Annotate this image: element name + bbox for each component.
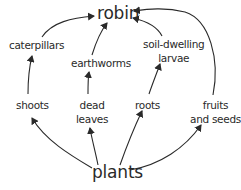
arrow-roots-to-larvae	[149, 64, 160, 94]
plants-label: plants	[92, 163, 143, 181]
node-dead-leaves: dead leaves	[76, 98, 108, 126]
node-plants: plants	[92, 163, 143, 181]
node-robin: robin	[97, 4, 139, 22]
node-caterpillars: caterpillars	[9, 38, 64, 52]
arrow-plants-to-roots	[120, 111, 142, 165]
fruits-label-line1: fruits	[190, 98, 241, 112]
fruits-label-line2: and seeds	[190, 112, 241, 126]
node-roots: roots	[135, 98, 160, 112]
dead-leaves-label-line1: dead	[76, 98, 108, 112]
arrow-shoots-to-caterpillars	[28, 56, 32, 94]
node-fruits-and-seeds: fruits and seeds	[190, 98, 241, 126]
dead-leaves-label-line2: leaves	[76, 112, 108, 126]
arrow-caterpillars-to-robin	[42, 16, 94, 37]
node-soil-dwelling-larvae: soil-dwelling larvae	[143, 37, 204, 65]
caterpillars-label: caterpillars	[9, 38, 64, 52]
food-web-diagram: robin caterpillars earthworms soil-dwell…	[0, 0, 241, 190]
arrow-plants-to-dead-leaves	[90, 128, 98, 165]
shoots-label: shoots	[16, 98, 49, 112]
roots-label: roots	[135, 98, 160, 112]
earthworms-label: earthworms	[71, 56, 131, 70]
robin-label: robin	[97, 4, 139, 22]
arrow-earthworms-to-robin	[92, 23, 107, 55]
node-shoots: shoots	[16, 98, 49, 112]
larvae-label-line2: larvae	[143, 51, 204, 65]
node-earthworms: earthworms	[71, 56, 131, 70]
arrow-dead-leaves-to-earthworms	[88, 72, 89, 94]
larvae-label-line1: soil-dwelling	[143, 37, 204, 51]
